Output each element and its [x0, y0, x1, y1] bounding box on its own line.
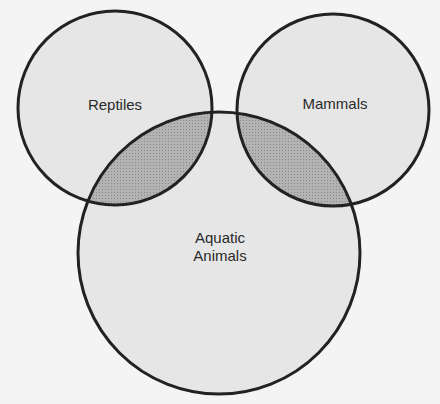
label-mammals: Mammals [285, 95, 385, 113]
label-aquatic-line1: Aquatic [170, 229, 270, 247]
venn-diagram: Reptiles Mammals Aquatic Animals [0, 0, 440, 404]
label-reptiles: Reptiles [70, 96, 160, 114]
label-aquatic-animals: Aquatic Animals [170, 229, 270, 265]
venn-svg [0, 0, 440, 404]
label-aquatic-line2: Animals [170, 247, 270, 265]
